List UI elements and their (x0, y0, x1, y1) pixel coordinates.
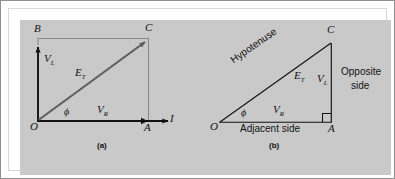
label-point-o-b: O (210, 121, 218, 132)
label-vector-et-b: ET (294, 70, 305, 84)
label-vector-et-a: ET (75, 67, 86, 81)
label-point-b: B (34, 23, 41, 34)
label-vector-vr-b: VR (273, 104, 284, 118)
vector-et-subscript-b: T (301, 76, 305, 83)
vector-et-subscript-a: T (82, 73, 86, 80)
label-angle-phi-b: ϕ (241, 108, 246, 118)
right-angle-marker (323, 113, 332, 122)
label-opposite-side-line1: Opposite (341, 67, 381, 77)
vector-vl-subscript-a: L (51, 59, 55, 66)
label-axis-current: I (170, 113, 174, 124)
label-angle-phi-a: ϕ (64, 107, 69, 117)
vector-vl-symbol-a: V (44, 52, 51, 64)
label-adjacent-side: Adjacent side (240, 124, 300, 134)
vector-vr-symbol-b: V (273, 103, 280, 115)
label-point-a-a: A (144, 122, 151, 133)
label-vector-vl-b: VL (317, 73, 328, 87)
caption-panel-b: (b) (269, 142, 279, 150)
label-point-c-a: C (145, 22, 152, 33)
label-vector-vr-a: VR (97, 104, 108, 118)
vector-vr-symbol-a: V (97, 103, 104, 115)
label-point-o-a: O (30, 121, 38, 132)
label-point-c-b: C (327, 24, 334, 35)
diagram-vector-graphics (1, 1, 395, 179)
vector-et-symbol-b: E (294, 69, 301, 81)
label-opposite-side-line2: side (351, 81, 369, 91)
vector-vl-subscript-b: L (324, 79, 328, 86)
caption-panel-a: (a) (97, 142, 107, 150)
vector-et-symbol-a: E (75, 66, 82, 78)
figure-root: B C O A I VL ET VR ϕ (a) C O A Hypotenus… (0, 0, 395, 179)
vector-vl-symbol-b: V (317, 72, 324, 84)
vector-vr-subscript-b: R (280, 110, 284, 117)
vector-vr-subscript-a: R (104, 110, 108, 117)
label-vector-vl-a: VL (44, 53, 55, 67)
label-point-a-b: A (328, 123, 335, 134)
